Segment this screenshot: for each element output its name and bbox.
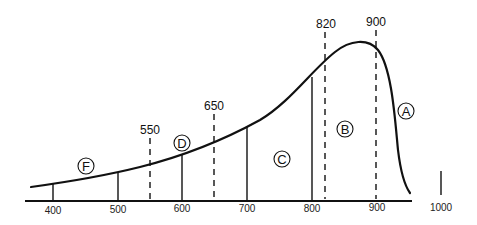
marker-label-650: 650 xyxy=(204,99,224,113)
marker-label-550: 550 xyxy=(140,123,160,137)
marker-label-820: 820 xyxy=(316,17,336,31)
axis-label-900: 900 xyxy=(369,202,386,213)
axis-label-1000: 1000 xyxy=(430,202,453,213)
axis-label-500: 500 xyxy=(110,204,127,215)
svg-text:B: B xyxy=(341,122,350,137)
svg-text:D: D xyxy=(177,136,186,151)
region-label-d: D xyxy=(174,135,190,151)
region-label-f: F xyxy=(78,158,94,174)
region-label-b: B xyxy=(337,121,353,137)
axis-label-400: 400 xyxy=(45,205,62,216)
axis-label-800: 800 xyxy=(304,203,321,214)
region-label-c: C xyxy=(274,151,290,167)
svg-text:F: F xyxy=(82,159,90,174)
axis-label-700: 700 xyxy=(239,203,256,214)
region-label-a: A xyxy=(398,103,414,119)
spectral-diagram: 550 650 820 900 400 500 600 700 800 900 … xyxy=(0,0,477,225)
svg-text:C: C xyxy=(277,152,286,167)
svg-text:A: A xyxy=(402,104,411,119)
axis-label-600: 600 xyxy=(174,203,191,214)
marker-label-900: 900 xyxy=(366,15,386,29)
